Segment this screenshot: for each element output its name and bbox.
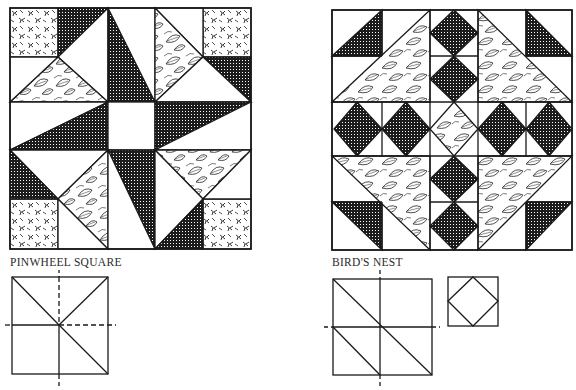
birds-nest-illustration — [330, 8, 576, 254]
birds-nest-cutting-diagram — [322, 270, 522, 388]
pinwheel-square-block — [8, 6, 254, 252]
pinwheel-square-diagram — [4, 270, 124, 388]
pinwheel-cutting-diagram — [4, 270, 124, 388]
birds-nest-block — [330, 8, 576, 254]
birds-nest-diagram — [322, 270, 522, 388]
pinwheel-square-illustration — [8, 6, 254, 252]
pinwheel-square-label: PINWHEEL SQUARE — [10, 256, 122, 268]
birds-nest-label: BIRD'S NEST — [332, 256, 403, 268]
